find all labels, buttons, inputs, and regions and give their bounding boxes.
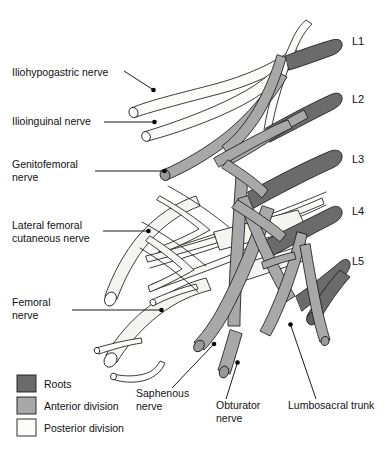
legend-swatch-anterior-division: [17, 397, 36, 414]
nerve-label-saphenous-line1: Saphenous: [136, 387, 189, 399]
nerve-label-obturator-line1: Obturator: [216, 399, 261, 411]
root-label-l3: L3: [352, 153, 364, 165]
nerve-label-genitofemoral-line2: nerve: [12, 171, 38, 183]
nerve-label-ilioinguinal: Ilioinguinal nerve: [12, 115, 91, 127]
nerve-label-femoral-line1: Femoral: [12, 296, 51, 308]
plexus-drawing: L1 L2 L3 L4 L5 Iliohypogastric nerve Ili…: [0, 0, 388, 452]
nerve-label-saphenous-line2: nerve: [136, 400, 162, 412]
leader-dot-genitofemoral: [162, 169, 167, 174]
nerve-label-genitofemoral-line1: Genitofemoral: [12, 158, 78, 170]
leader-dot-ilioinguinal: [152, 120, 157, 125]
legend-swatch-posterior-division: [17, 419, 36, 436]
root-label-l1: L1: [352, 35, 364, 47]
nerve-label-femoral-line2: nerve: [12, 309, 38, 321]
nerve-label-iliohypogastric: Iliohypogastric nerve: [12, 66, 108, 78]
legend-label-posterior-division: Posterior division: [44, 422, 124, 434]
legend-label-anterior-division: Anterior division: [44, 400, 119, 412]
root-label-l4: L4: [352, 205, 364, 217]
femoral-branch-bottom-end: [110, 373, 117, 381]
root-label-l2: L2: [352, 93, 364, 105]
leader-dot-saphenous: [212, 342, 217, 347]
lumbar-plexus-figure: L1 L2 L3 L4 L5 Iliohypogastric nerve Ili…: [0, 0, 388, 452]
nerve-label-obturator-line2: nerve: [216, 412, 242, 424]
leader-dot-iliohypogastric: [151, 88, 156, 93]
leader-dot-lateral-femoral-cutaneous: [146, 229, 151, 234]
leader-dot-femoral: [159, 308, 164, 313]
root-label-l5: L5: [352, 255, 364, 267]
nerve-label-lateral-femoral-cutaneous-line2: cutaneous nerve: [12, 232, 90, 244]
leader-dot-obturator: [235, 360, 240, 365]
nerve-label-lateral-femoral-cutaneous-line1: Lateral femoral: [12, 219, 82, 231]
nerve-label-lumbosacral-trunk: Lumbosacral trunk: [288, 399, 375, 411]
leader-dot-lumbosacral-trunk: [288, 322, 293, 327]
legend-swatch-roots: [17, 375, 36, 392]
legend-label-roots: Roots: [44, 378, 71, 390]
